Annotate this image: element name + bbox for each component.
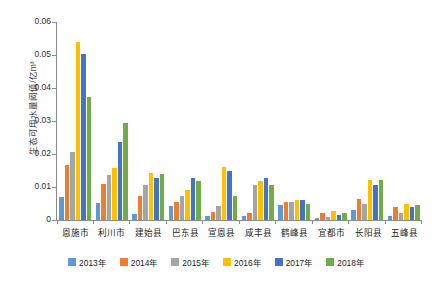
x-axis-tick-mark <box>348 220 349 224</box>
bar[interactable] <box>295 200 300 220</box>
y-axis-tick-mark <box>52 187 56 188</box>
bar[interactable] <box>107 175 112 220</box>
bar[interactable] <box>154 178 159 220</box>
bar[interactable] <box>222 167 227 220</box>
legend-swatch-icon <box>171 258 179 266</box>
x-axis-label: 五峰县 <box>386 226 423 238</box>
bar[interactable] <box>284 202 289 220</box>
bar[interactable] <box>65 165 70 220</box>
bar[interactable] <box>368 180 373 220</box>
x-axis-label: 建始县 <box>130 226 167 238</box>
bar[interactable] <box>326 217 331 220</box>
bar[interactable] <box>196 181 201 220</box>
bar[interactable] <box>379 180 384 220</box>
bar[interactable] <box>143 185 148 220</box>
x-axis-tick-mark <box>93 220 94 224</box>
bar-group <box>386 22 423 220</box>
x-axis-tick-mark <box>312 220 313 224</box>
legend-swatch-icon <box>120 258 128 266</box>
chart-legend: 2013年2014年2015年2016年2017年2018年 <box>0 256 432 268</box>
legend-label: 2016年 <box>234 256 261 268</box>
x-axis-label: 鹤峰县 <box>277 226 314 238</box>
bar[interactable] <box>351 210 356 220</box>
y-axis-tick-label: 0.06 <box>34 16 51 26</box>
bar[interactable] <box>160 174 165 220</box>
bar[interactable] <box>269 185 274 220</box>
bar-group <box>240 22 277 220</box>
bar[interactable] <box>81 54 86 220</box>
bar[interactable] <box>112 168 117 220</box>
bar[interactable] <box>227 171 232 221</box>
bar[interactable] <box>253 185 258 220</box>
y-axis-tick-mark <box>52 22 56 23</box>
bar[interactable] <box>264 178 269 220</box>
bar[interactable] <box>258 181 263 220</box>
bar-group <box>94 22 131 220</box>
bar[interactable] <box>169 206 174 220</box>
bar[interactable] <box>342 213 347 220</box>
bar[interactable] <box>101 184 106 220</box>
bar[interactable] <box>132 214 137 220</box>
y-axis-tick-label: 0.04 <box>34 82 51 92</box>
x-axis-tick-mark <box>57 220 58 224</box>
bar[interactable] <box>315 218 320 220</box>
legend-item[interactable]: 2014年 <box>120 256 158 268</box>
legend-swatch-icon <box>275 258 283 266</box>
bar[interactable] <box>331 211 336 220</box>
legend-swatch-icon <box>326 258 334 266</box>
bar[interactable] <box>300 200 305 220</box>
bar[interactable] <box>138 196 143 220</box>
bar-group <box>313 22 350 220</box>
bar[interactable] <box>70 152 75 220</box>
legend-swatch-icon <box>68 258 76 266</box>
bar[interactable] <box>373 185 378 220</box>
bar[interactable] <box>404 204 409 221</box>
legend-label: 2014年 <box>131 256 158 268</box>
bar[interactable] <box>362 204 367 221</box>
bar-group <box>167 22 204 220</box>
bar[interactable] <box>96 203 101 220</box>
bar-group <box>276 22 313 220</box>
legend-item[interactable]: 2017年 <box>275 256 313 268</box>
bar[interactable] <box>337 215 342 220</box>
bar[interactable] <box>205 216 210 220</box>
legend-item[interactable]: 2018年 <box>326 256 364 268</box>
bar[interactable] <box>306 204 311 220</box>
bar[interactable] <box>415 205 420 220</box>
bar[interactable] <box>289 202 294 220</box>
bar[interactable] <box>320 213 325 220</box>
legend-item[interactable]: 2013年 <box>68 256 106 268</box>
y-axis-tick-mark <box>52 121 56 122</box>
bar[interactable] <box>216 206 221 220</box>
x-axis-label: 宜都市 <box>313 226 350 238</box>
bar[interactable] <box>118 142 123 220</box>
bar[interactable] <box>233 196 238 220</box>
legend-item[interactable]: 2015年 <box>171 256 209 268</box>
y-axis-tick-mark <box>52 55 56 56</box>
bar[interactable] <box>59 197 64 220</box>
x-axis-tick-mark <box>202 220 203 224</box>
bar[interactable] <box>123 123 128 220</box>
x-axis-tick-mark <box>129 220 130 224</box>
bar[interactable] <box>242 216 247 220</box>
bar[interactable] <box>399 213 404 220</box>
bar[interactable] <box>278 205 283 220</box>
legend-swatch-icon <box>223 258 231 266</box>
bar[interactable] <box>211 212 216 220</box>
bar[interactable] <box>393 207 398 220</box>
bar[interactable] <box>87 97 92 220</box>
bar[interactable] <box>76 42 81 220</box>
bar[interactable] <box>174 202 179 220</box>
bar[interactable] <box>410 207 415 220</box>
bar[interactable] <box>180 196 185 220</box>
bar[interactable] <box>149 173 154 220</box>
bar[interactable] <box>388 216 393 220</box>
bar[interactable] <box>357 199 362 220</box>
x-axis-tick-mark <box>421 220 422 224</box>
legend-item[interactable]: 2016年 <box>223 256 261 268</box>
y-axis-tick-label: 0.03 <box>34 115 51 125</box>
bar[interactable] <box>185 190 190 220</box>
ecological-water-threshold-bar-chart: 生态可用水量阈值/亿m³ 00.010.020.030.040.050.06 恩… <box>0 0 432 282</box>
bar[interactable] <box>247 213 252 220</box>
bar[interactable] <box>191 178 196 220</box>
